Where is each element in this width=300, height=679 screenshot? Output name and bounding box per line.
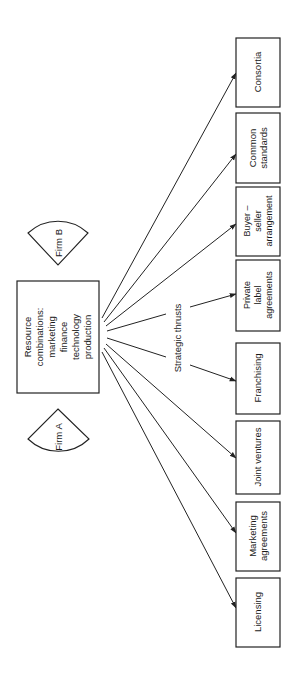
target-label: Consortia [252,51,263,92]
target-common-standards: Common standards [236,113,280,183]
center-box-line: combinations: [34,308,45,367]
target-label: Common [247,129,258,168]
target-label: label [253,285,263,304]
target-label: seller [253,210,263,232]
arrow-franchising [190,365,236,381]
target-licensing: Licensing [236,578,280,647]
firm-b-shape: Firm B [28,221,88,265]
target-label: Licensing [252,592,263,632]
target-label: agreements [258,511,269,561]
firm-b-label: Firm B [53,229,64,257]
target-label: Private [242,281,252,309]
arrows [102,73,236,608]
arrow-consortia [102,73,236,318]
target-label: standards [258,127,269,169]
arrow-licensing [102,352,236,608]
target-label: Marketing [247,515,258,557]
target-joint-ventures: Joint ventures [236,421,280,494]
firm-a-label: Firm A [53,423,64,451]
arrow-private-label [190,294,236,307]
target-label: Buyer – [242,205,252,236]
center-box-line: production [82,315,93,359]
arrow-common-standards [104,154,236,322]
center-box-line: Resource [22,317,33,358]
target-marketing-agreements: Marketing agreements [236,502,280,571]
edge-label-strategic-thrusts: Strategic thrusts [172,303,183,372]
center-box-line: marketing [46,316,57,358]
arrow-joint-ventures [106,344,236,458]
target-private-label-agreements: Private label agreements [236,260,280,331]
center-box-line: technology [70,314,81,360]
center-box-resource-combinations: Resource combinations: marketing finance… [17,281,99,393]
target-label: agreements [264,271,274,319]
center-box-line: finance [58,322,69,353]
target-label: Franchising [252,353,263,402]
arrow-private-label-tail [107,314,166,331]
firm-a-shape: Firm A [28,409,89,451]
target-label: arrangement [264,195,274,247]
strategic-thrusts-diagram: Strategic thrusts Resource combinations:… [0,0,300,679]
target-label: Joint ventures [252,427,263,486]
target-franchising: Franchising [236,343,280,414]
arrow-franchising-tail [107,338,166,357]
target-consortia: Consortia [236,38,280,107]
target-buyer-seller-arrangement: Buyer – seller arrangement [236,187,280,256]
